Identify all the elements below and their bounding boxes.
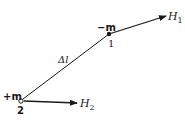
- point-1-label: 1: [108, 38, 114, 49]
- vector-h2-arrow: [24, 101, 77, 103]
- point-2-label: 2: [17, 105, 24, 116]
- segment-delta-l: [23, 34, 109, 99]
- vector-h1-label: H1: [167, 10, 183, 25]
- segment-label-delta-l: Δl: [57, 54, 68, 65]
- vector-h1-arrow: [109, 16, 166, 34]
- charge-label-minus-m: −m: [97, 22, 116, 33]
- charge-label-plus-m: +m: [3, 91, 22, 102]
- magnetic-dipole-diagram: −m 1 Δl +m 2 H1 H2: [0, 0, 185, 126]
- vector-h2-label: H2: [79, 97, 95, 112]
